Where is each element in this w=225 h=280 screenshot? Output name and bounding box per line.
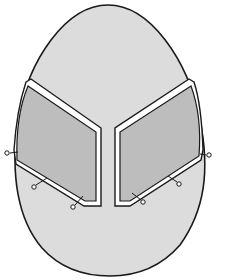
diagram-canvas (0, 0, 225, 280)
egg-diagram (0, 0, 225, 280)
pin-head-icon (207, 153, 211, 157)
pin-head-icon (141, 200, 145, 204)
pin-head-icon (177, 182, 181, 186)
pin-head-icon (32, 185, 36, 189)
pin-head-icon (71, 205, 75, 209)
pin-head-icon (5, 151, 9, 155)
